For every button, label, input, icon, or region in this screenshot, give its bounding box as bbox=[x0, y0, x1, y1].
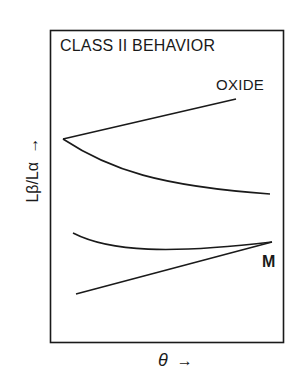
x-axis-label: θ → bbox=[158, 350, 193, 371]
m-curved-branch bbox=[73, 233, 272, 249]
m-label: M bbox=[262, 253, 275, 271]
x-axis-arrow-icon: → bbox=[177, 352, 193, 369]
oxide-falling-curve bbox=[63, 139, 270, 194]
y-axis-label-text: Lβ/Lα bbox=[24, 162, 41, 203]
y-axis-arrow-icon: → bbox=[24, 137, 41, 153]
plot-area bbox=[0, 0, 299, 387]
figure-title: CLASS II BEHAVIOR bbox=[60, 37, 280, 55]
class-ii-behavior-figure: CLASS II BEHAVIOR OXIDE M Lβ/Lα → θ → bbox=[0, 0, 299, 387]
x-axis-label-text: θ bbox=[158, 350, 168, 370]
oxide-rising-line bbox=[63, 99, 236, 139]
y-axis-label: Lβ/Lα → bbox=[24, 137, 42, 202]
oxide-label: OXIDE bbox=[216, 76, 264, 93]
